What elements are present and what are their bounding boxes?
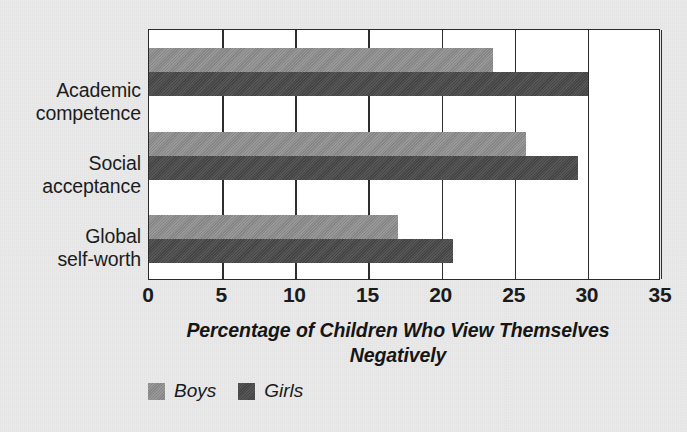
x-tick-label-35: 35 (649, 283, 672, 307)
bar-boys-global-self-worth (149, 215, 398, 239)
legend-label-boys: Boys (174, 380, 216, 402)
chart-legend: Boys Girls (148, 380, 303, 402)
x-tick-label-25: 25 (502, 283, 525, 307)
bar-boys-social-acceptance (149, 132, 526, 156)
category-label-line2: competence (1, 102, 141, 125)
category-label-line2: self-worth (1, 248, 141, 271)
category-label-global-self-worth: Global self-worth (1, 225, 141, 271)
category-label-line1: Global (1, 225, 141, 248)
category-label-line2: acceptance (1, 175, 141, 198)
x-axis-title-line1: Percentage of Children Who View Themselv… (118, 318, 678, 343)
legend-item-girls: Girls (238, 380, 303, 402)
x-tick-label-15: 15 (356, 283, 379, 307)
legend-label-girls: Girls (264, 380, 303, 402)
chart-figure: Academic competence Social acceptance Gl… (0, 0, 687, 432)
x-tick-label-10: 10 (283, 283, 306, 307)
category-label-academic-competence: Academic competence (1, 79, 141, 125)
x-tick-label-0: 0 (142, 283, 153, 307)
x-tick-label-20: 20 (429, 283, 452, 307)
category-axis-labels: Academic competence Social acceptance Gl… (0, 29, 141, 280)
bar-girls-global-self-worth (149, 239, 453, 263)
gridline-30 (588, 30, 589, 279)
x-tick-label-5: 5 (215, 283, 226, 307)
gridline-35 (661, 30, 662, 279)
x-tick-label-30: 30 (575, 283, 598, 307)
category-label-social-acceptance: Social acceptance (1, 152, 141, 198)
bar-girls-academic-competence (149, 72, 588, 96)
x-axis-title: Percentage of Children Who View Themselv… (118, 318, 678, 368)
legend-swatch-girls-icon (238, 383, 255, 400)
category-label-line1: Social (1, 152, 141, 175)
legend-item-boys: Boys (148, 380, 216, 402)
x-axis-title-line2: Negatively (118, 343, 678, 368)
category-label-line1: Academic (1, 79, 141, 102)
plot-area (148, 29, 660, 280)
bar-girls-social-acceptance (149, 156, 578, 180)
legend-swatch-boys-icon (148, 383, 165, 400)
bar-boys-academic-competence (149, 48, 493, 72)
x-axis-tick-labels: 05101520253035 (148, 283, 660, 311)
